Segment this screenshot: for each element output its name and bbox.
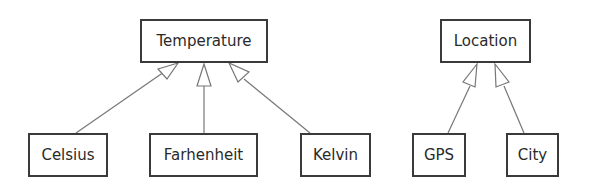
- link-celsius-temperature: [76, 72, 164, 133]
- generalization-arrow-icon: [197, 64, 211, 86]
- class-gps: GPS: [412, 133, 466, 177]
- class-celsius: Celsius: [28, 133, 108, 177]
- class-label: GPS: [424, 146, 454, 164]
- link-kelvin-temperature: [244, 79, 310, 133]
- class-label: Celsius: [41, 146, 94, 164]
- generalization-arrow-icon: [229, 63, 249, 82]
- class-label: City: [518, 146, 547, 164]
- class-label: Temperature: [156, 32, 251, 50]
- class-location: Location: [440, 19, 531, 63]
- generalization-arrow-icon: [463, 64, 477, 87]
- class-kelvin: Kelvin: [300, 133, 371, 177]
- class-label: Kelvin: [313, 146, 358, 164]
- class-city: City: [506, 133, 559, 177]
- link-gps-location: [448, 86, 470, 133]
- class-label: Location: [454, 32, 517, 50]
- class-label: Farhenheit: [164, 146, 243, 164]
- link-city-location: [504, 86, 524, 133]
- class-farhenheit: Farhenheit: [149, 133, 258, 177]
- generalization-arrow-icon: [158, 63, 178, 79]
- class-temperature: Temperature: [140, 19, 268, 63]
- generalization-arrow-icon: [495, 64, 509, 87]
